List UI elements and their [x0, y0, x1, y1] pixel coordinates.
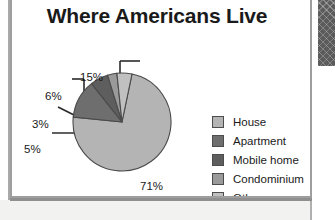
legend-item-house[interactable]: House [212, 112, 304, 131]
legend-item-other[interactable]: Other [212, 188, 304, 198]
chart-card: Where Americans Live [10, 0, 312, 198]
legend-label-apartment: Apartment [233, 135, 286, 147]
scanned-page-background: Where Americans Live [0, 0, 335, 220]
slice-label-other: 5% [24, 143, 41, 155]
legend-label-mobile-home: Mobile home [233, 154, 299, 166]
legend-item-apartment[interactable]: Apartment [212, 131, 304, 150]
slice-label-house: 71% [140, 180, 163, 192]
slice-label-apartment: 15% [80, 71, 103, 83]
adjacent-page-edge-left [0, 0, 10, 200]
pie-chart-plot: 15% 6% 3% 5% 71% House Apartment Mobile … [12, 30, 312, 196]
pie-graphic [72, 72, 172, 172]
legend-swatch-apartment [212, 135, 224, 147]
legend-swatch-house [212, 116, 224, 128]
legend-label-house: House [233, 116, 266, 128]
texture-patch [318, 0, 335, 66]
slice-label-condominium: 3% [32, 118, 49, 130]
legend-label-condominium: Condominium [233, 173, 304, 185]
card-bottom-shadow [10, 198, 312, 201]
legend-swatch-mobile-home [212, 154, 224, 166]
legend-item-mobile-home[interactable]: Mobile home [212, 150, 304, 169]
chart-legend: House Apartment Mobile home Condominium … [212, 112, 304, 198]
slice-label-mobile-home: 6% [45, 90, 62, 102]
page-title: Where Americans Live [12, 4, 302, 28]
legend-swatch-condominium [212, 173, 224, 185]
legend-item-condominium[interactable]: Condominium [212, 169, 304, 188]
